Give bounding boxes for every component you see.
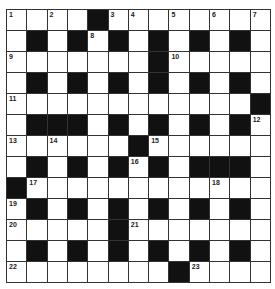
grid-cell[interactable] — [88, 199, 107, 219]
grid-cell[interactable] — [109, 52, 128, 72]
grid-cell[interactable] — [210, 52, 229, 72]
grid-cell[interactable] — [68, 10, 87, 30]
grid-cell[interactable] — [169, 31, 188, 51]
grid-cell[interactable] — [251, 157, 270, 177]
grid-cell[interactable] — [210, 241, 229, 261]
grid-cell[interactable] — [190, 94, 209, 114]
grid-cell[interactable] — [251, 241, 270, 261]
grid-cell[interactable]: 12 — [251, 115, 270, 135]
grid-cell[interactable] — [48, 178, 67, 198]
grid-cell[interactable] — [129, 94, 148, 114]
grid-cell[interactable] — [68, 52, 87, 72]
grid-cell[interactable] — [149, 10, 168, 30]
grid-cell[interactable] — [88, 262, 107, 282]
grid-cell[interactable] — [88, 220, 107, 240]
grid-cell[interactable] — [7, 31, 26, 51]
grid-cell[interactable] — [48, 262, 67, 282]
grid-cell[interactable] — [149, 220, 168, 240]
grid-cell[interactable] — [169, 220, 188, 240]
grid-cell[interactable]: 7 — [251, 10, 270, 30]
grid-cell[interactable] — [169, 178, 188, 198]
grid-cell[interactable] — [149, 262, 168, 282]
grid-cell[interactable]: 20 — [7, 220, 26, 240]
grid-cell[interactable] — [251, 73, 270, 93]
grid-cell[interactable] — [190, 136, 209, 156]
grid-cell[interactable] — [7, 241, 26, 261]
grid-cell[interactable] — [129, 262, 148, 282]
grid-cell[interactable] — [251, 220, 270, 240]
grid-cell[interactable] — [230, 52, 249, 72]
grid-cell[interactable] — [88, 157, 107, 177]
grid-cell[interactable] — [251, 136, 270, 156]
grid-cell[interactable] — [169, 157, 188, 177]
grid-cell[interactable] — [190, 178, 209, 198]
grid-cell[interactable]: 3 — [109, 10, 128, 30]
grid-cell[interactable]: 4 — [129, 10, 148, 30]
grid-cell[interactable]: 14 — [48, 136, 67, 156]
grid-cell[interactable]: 11 — [7, 94, 26, 114]
grid-cell[interactable] — [109, 136, 128, 156]
grid-cell[interactable] — [210, 115, 229, 135]
grid-cell[interactable] — [88, 73, 107, 93]
grid-cell[interactable] — [230, 94, 249, 114]
grid-cell[interactable] — [169, 136, 188, 156]
grid-cell[interactable]: 1 — [7, 10, 26, 30]
grid-cell[interactable] — [48, 199, 67, 219]
grid-cell[interactable] — [88, 94, 107, 114]
grid-cell[interactable] — [88, 52, 107, 72]
grid-cell[interactable]: 6 — [210, 10, 229, 30]
grid-cell[interactable] — [48, 31, 67, 51]
grid-cell[interactable] — [129, 241, 148, 261]
grid-cell[interactable] — [210, 94, 229, 114]
grid-cell[interactable]: 18 — [210, 178, 229, 198]
grid-cell[interactable] — [251, 199, 270, 219]
grid-cell[interactable] — [48, 241, 67, 261]
grid-cell[interactable] — [109, 262, 128, 282]
grid-cell[interactable]: 17 — [27, 178, 46, 198]
grid-cell[interactable] — [88, 241, 107, 261]
grid-cell[interactable] — [230, 136, 249, 156]
grid-cell[interactable] — [88, 136, 107, 156]
grid-cell[interactable] — [169, 199, 188, 219]
grid-cell[interactable] — [149, 178, 168, 198]
grid-cell[interactable] — [230, 262, 249, 282]
grid-cell[interactable] — [251, 31, 270, 51]
grid-cell[interactable] — [169, 115, 188, 135]
grid-cell[interactable]: 9 — [7, 52, 26, 72]
grid-cell[interactable]: 5 — [169, 10, 188, 30]
grid-cell[interactable] — [251, 52, 270, 72]
grid-cell[interactable] — [48, 157, 67, 177]
grid-cell[interactable] — [88, 178, 107, 198]
grid-cell[interactable] — [109, 94, 128, 114]
grid-cell[interactable] — [210, 199, 229, 219]
grid-cell[interactable]: 10 — [169, 52, 188, 72]
grid-cell[interactable] — [68, 220, 87, 240]
grid-cell[interactable] — [129, 178, 148, 198]
grid-cell[interactable] — [230, 178, 249, 198]
grid-cell[interactable] — [109, 178, 128, 198]
grid-cell[interactable] — [27, 136, 46, 156]
grid-cell[interactable]: 13 — [7, 136, 26, 156]
grid-cell[interactable] — [230, 10, 249, 30]
grid-cell[interactable]: 22 — [7, 262, 26, 282]
grid-cell[interactable] — [251, 262, 270, 282]
grid-cell[interactable] — [68, 136, 87, 156]
grid-cell[interactable] — [169, 94, 188, 114]
grid-cell[interactable] — [68, 94, 87, 114]
grid-cell[interactable] — [129, 52, 148, 72]
grid-cell[interactable] — [230, 220, 249, 240]
grid-cell[interactable]: 19 — [7, 199, 26, 219]
grid-cell[interactable] — [27, 94, 46, 114]
grid-cell[interactable] — [48, 73, 67, 93]
grid-cell[interactable] — [210, 31, 229, 51]
grid-cell[interactable] — [27, 220, 46, 240]
grid-cell[interactable] — [210, 262, 229, 282]
grid-cell[interactable] — [27, 10, 46, 30]
grid-cell[interactable] — [129, 31, 148, 51]
grid-cell[interactable] — [149, 94, 168, 114]
grid-cell[interactable] — [7, 157, 26, 177]
grid-cell[interactable] — [129, 199, 148, 219]
grid-cell[interactable] — [48, 94, 67, 114]
grid-cell[interactable] — [190, 52, 209, 72]
grid-cell[interactable] — [251, 178, 270, 198]
